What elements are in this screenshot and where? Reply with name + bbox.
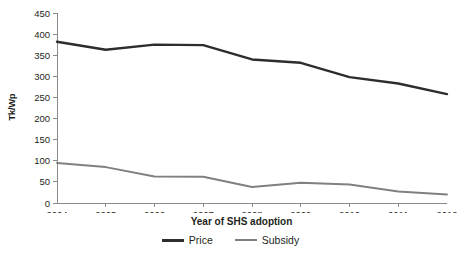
legend-swatch-subsidy-icon <box>235 239 257 241</box>
y-tick-label: 400 <box>34 29 50 40</box>
series-line-subsidy <box>57 163 447 195</box>
legend-swatch-price-icon <box>162 239 184 242</box>
legend-label-price: Price <box>189 234 213 246</box>
legend-label-subsidy: Subsidy <box>262 234 299 246</box>
line-chart: Tk/Wp 050100150200250300350400450 200420… <box>0 0 461 263</box>
y-tick-label: 50 <box>39 176 50 187</box>
x-tick-label: 2005 <box>95 209 116 213</box>
series-line-price <box>57 42 447 94</box>
y-axis-tick-labels: 050100150200250300350400450 <box>34 8 50 209</box>
x-axis-tick-labels: 200420052006200720082009201020112012 <box>46 209 457 213</box>
x-tick-label: 2007 <box>193 209 214 213</box>
y-axis-title-container: Tk/Wp <box>0 0 22 213</box>
x-tick-label: 2004 <box>46 209 67 213</box>
y-tick-label: 200 <box>34 113 50 124</box>
plot-svg: 050100150200250300350400450 200420052006… <box>22 0 461 213</box>
x-tick-label: 2012 <box>436 209 457 213</box>
x-tick-label: 2008 <box>241 209 262 213</box>
y-tick-label: 350 <box>34 50 50 61</box>
plot-area: 050100150200250300350400450 200420052006… <box>22 0 461 213</box>
x-tick-label: 2006 <box>144 209 165 213</box>
x-tick-label: 2010 <box>339 209 360 213</box>
legend-item-subsidy: Subsidy <box>235 234 299 246</box>
y-axis-title: Tk/Wp <box>6 93 16 120</box>
y-tick-label: 300 <box>34 71 50 82</box>
y-tick-label: 100 <box>34 155 50 166</box>
y-tick-label: 250 <box>34 92 50 103</box>
y-tick-label: 450 <box>34 8 50 19</box>
y-tick-label: 0 <box>45 198 50 209</box>
legend-item-price: Price <box>162 234 213 246</box>
x-axis-tick-marks <box>106 203 399 207</box>
chart-legend: Price Subsidy <box>0 234 461 246</box>
x-tick-label: 2011 <box>388 209 408 213</box>
y-tick-label: 150 <box>34 134 50 145</box>
x-axis-title: Year of SHS adoption <box>22 216 461 227</box>
x-tick-label: 2009 <box>290 209 311 213</box>
